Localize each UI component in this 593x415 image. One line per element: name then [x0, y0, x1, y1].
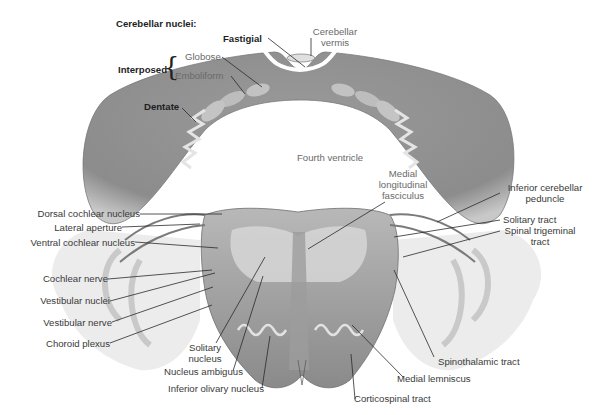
label-dorsal-cochlear-nucleus: Dorsal cochlear nucleus [38, 208, 140, 219]
label-vestibular-nuclei: Vestibular nuclei [40, 295, 110, 306]
label-nucleus-ambiguus: Nucleus ambiguus [164, 366, 243, 377]
label-line: fasciculus [373, 190, 433, 201]
cerebellar-folia-right [393, 230, 541, 370]
label-cerebellar-vermis: Cerebellar vermis [305, 26, 365, 48]
label-fastigial: Fastigial [223, 33, 262, 44]
label-line: Cerebellar [305, 26, 365, 37]
label-medial-longitudinal-fasciculus: Medial longitudinal fasciculus [373, 168, 433, 201]
label-fourth-ventricle: Fourth ventricle [297, 152, 363, 163]
label-choroid-plexus: Choroid plexus [46, 338, 110, 349]
label-medial-lemniscus: Medial lemniscus [397, 373, 471, 384]
label-inferior-cerebellar-peduncle: Inferior cerebellar peduncle [500, 182, 590, 204]
cerebellar-nuclei-header: Cerebellar nuclei: [116, 18, 197, 29]
label-ventral-cochlear-nucleus: Ventral cochlear nucleus [30, 237, 135, 248]
label-dentate: Dentate [144, 101, 179, 112]
label-line: peduncle [500, 193, 590, 204]
label-spinothalamic-tract: Spinothalamic tract [438, 356, 520, 367]
label-lateral-aperture: Lateral aperture [54, 222, 122, 233]
label-line: Inferior cerebellar [500, 182, 590, 193]
label-spinal-trigeminal-tract: Spinal trigeminal tract [500, 225, 580, 247]
label-inferior-olivary-nucleus: Inferior olivary nucleus [168, 383, 264, 394]
label-solitary-nucleus: Solitary nucleus [180, 342, 230, 364]
label-line: Medial [373, 168, 433, 179]
label-interposed: Interposed [118, 64, 167, 75]
label-globose: Globose [185, 51, 221, 62]
label-line: Solitary [180, 342, 230, 353]
label-line: Spinal trigeminal [500, 225, 580, 236]
label-line: nucleus [180, 353, 230, 364]
label-line: vermis [305, 37, 365, 48]
label-vestibular-nerve: Vestibular nerve [43, 317, 112, 328]
label-solitary-tract: Solitary tract [503, 214, 556, 225]
label-cochlear-nerve: Cochlear nerve [43, 273, 108, 284]
brainstem-cerebellum-cross-section: Cerebellar nuclei: Fastigial Interposed … [0, 0, 593, 415]
label-corticospinal-tract: Corticospinal tract [354, 393, 431, 404]
label-emboliform: Emboliform [175, 70, 224, 81]
label-line: tract [500, 236, 580, 247]
label-line: longitudinal [373, 179, 433, 190]
